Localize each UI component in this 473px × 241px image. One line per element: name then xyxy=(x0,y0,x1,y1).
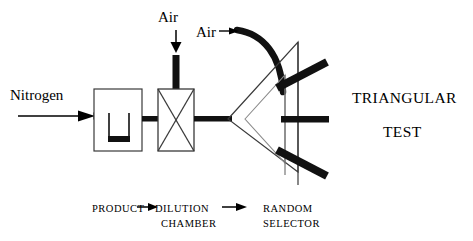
product-vessel xyxy=(94,89,142,151)
title-line-2: TEST xyxy=(383,124,422,140)
process-flow-diagram xyxy=(0,0,473,241)
air-inlet-label: Air xyxy=(158,10,178,25)
caption-random: RANDOM xyxy=(263,203,313,214)
air-inlet-pipe xyxy=(173,55,180,89)
random-selector xyxy=(228,42,298,185)
figure-canvas: Nitrogen Air Air TRIANGULAR TEST PRODUCT… xyxy=(0,0,473,241)
caption-product: PRODUCT xyxy=(92,203,145,214)
nitrogen-label: Nitrogen xyxy=(10,88,63,103)
air-inlet-arrow xyxy=(171,30,182,53)
caption-chamber: CHAMBER xyxy=(161,218,216,229)
caption-arrow-dilution-to-random xyxy=(222,203,247,211)
pipe-chamber-to-selector xyxy=(194,116,232,122)
caption-selector: SELECTOR xyxy=(263,218,320,229)
selector-output-arm-middle xyxy=(281,116,329,123)
title-line-1: TRIANGULAR xyxy=(352,90,457,106)
air-exhaust-label: Air xyxy=(196,25,216,40)
caption-dilution: DILUTION xyxy=(155,203,209,214)
nitrogen-inlet-arrow xyxy=(18,111,95,122)
dilution-chamber xyxy=(158,89,194,151)
